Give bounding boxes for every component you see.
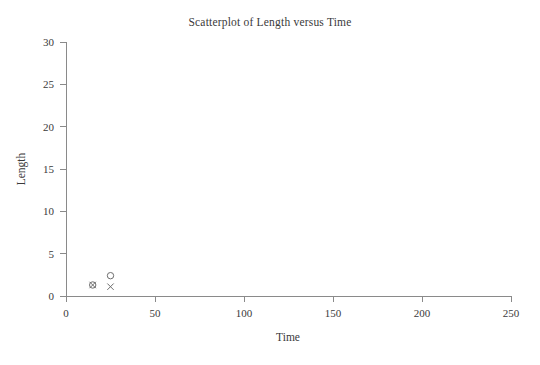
data-markers [90,272,114,289]
y-axis-title: Length [15,152,28,185]
x-tick-label-100: 100 [236,307,253,319]
scatterplot-figure: Scatterplot of Length versus Time 0 5 10… [0,0,540,365]
x-tick-label-50: 50 [150,307,162,319]
marker-circle [107,272,113,278]
y-tick-label-10: 10 [43,205,55,217]
y-tick-label-30: 30 [43,36,55,48]
plot-area: 0 5 10 15 20 25 30 0 50 100 150 200 250 … [0,0,540,365]
y-tick-label-20: 20 [43,121,55,133]
y-tick-label-15: 15 [43,163,55,175]
x-tick-label-150: 150 [325,307,342,319]
y-tick-label-25: 25 [43,78,55,90]
x-tick-label-0: 0 [63,307,69,319]
x-axis-title: Time [276,331,300,343]
x-tick-label-200: 200 [414,307,431,319]
x-tick-label-250: 250 [503,307,520,319]
y-tick-label-0: 0 [49,290,55,302]
y-tick-label-5: 5 [49,248,55,260]
